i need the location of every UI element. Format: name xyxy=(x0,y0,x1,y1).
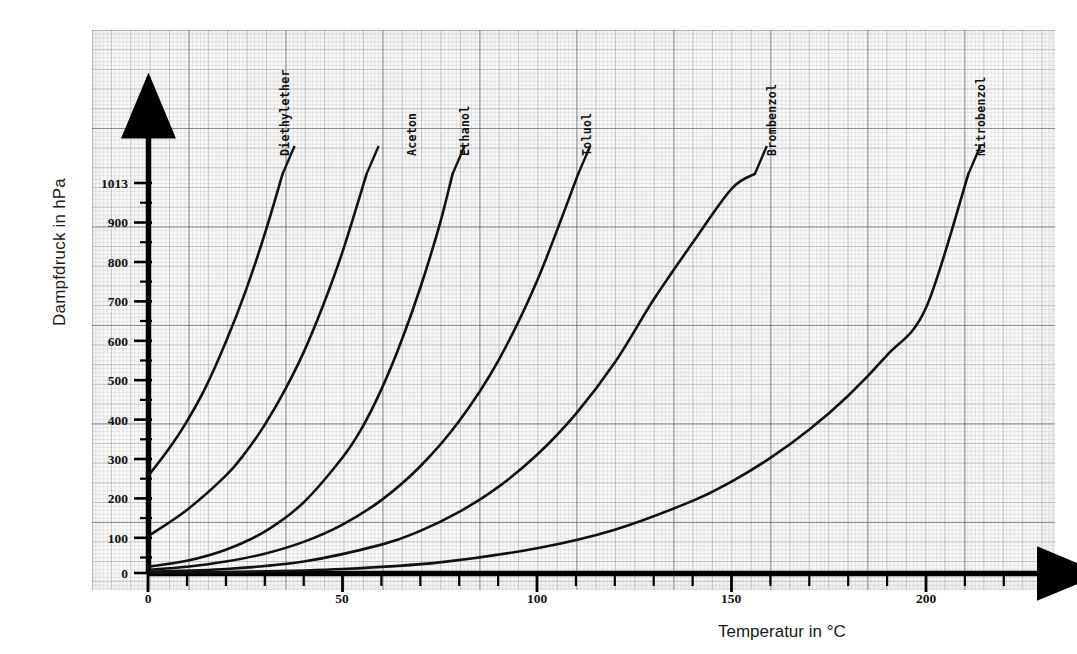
x-tick-label-50: 50 xyxy=(312,591,372,607)
curve-label-diethylether: Diethylether xyxy=(278,69,292,156)
vapor-pressure-chart: 1013 900 800 700 600 500 400 300 200 100… xyxy=(0,0,1077,654)
curve-label-brombenzol: Brombenzol xyxy=(765,84,779,156)
curve-label-leader-lines xyxy=(283,146,981,174)
y-tick-label-600: 600 xyxy=(68,334,128,350)
curve-ethanol xyxy=(148,174,453,567)
x-tick-label-100: 100 xyxy=(507,591,567,607)
y-tick-label-500: 500 xyxy=(68,373,128,389)
y-tick-label-1013: 1013 xyxy=(68,176,128,192)
y-tick-label-700: 700 xyxy=(68,294,128,310)
curve-label-nitrobenzol: Nitrobenzol xyxy=(974,77,988,156)
curve-nitrobenzol xyxy=(148,174,968,573)
axis-lines xyxy=(148,133,1042,574)
y-tick-label-300: 300 xyxy=(68,452,128,468)
curve-aceton xyxy=(148,174,367,536)
x-tick-label-0: 0 xyxy=(118,591,178,607)
y-tick-label-800: 800 xyxy=(68,255,128,271)
curve-label-aceton: Aceton xyxy=(405,113,419,156)
y-tick-label-100: 100 xyxy=(68,531,128,547)
x-tick-label-150: 150 xyxy=(701,591,761,607)
plot-svg xyxy=(0,0,1077,654)
y-tick-label-0: 0 xyxy=(68,566,128,582)
leader-aceton xyxy=(367,146,379,174)
vapor-pressure-curves xyxy=(148,174,968,573)
y-axis-title: Dampfdruck in hPa xyxy=(50,132,70,372)
y-tick-label-400: 400 xyxy=(68,413,128,429)
y-tick-label-900: 900 xyxy=(68,215,128,231)
x-tick-label-200: 200 xyxy=(896,591,956,607)
curve-label-toluol: Toluol xyxy=(580,113,594,156)
x-axis-title: Temperatur in °C xyxy=(718,622,846,642)
curve-label-ethanol: Ethanol xyxy=(458,105,472,156)
y-tick-label-200: 200 xyxy=(68,491,128,507)
